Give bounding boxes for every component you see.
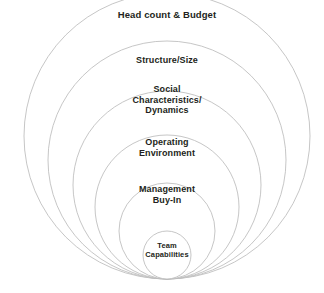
layer-label-operating-environment: Operating Environment: [139, 137, 195, 158]
layer-label-management-buy-in: Management Buy-In: [139, 184, 195, 205]
layer-label-structure-size: Structure/Size: [136, 55, 198, 66]
layer-label-team-capabilities: Team Capabilities: [145, 242, 188, 260]
nested-circles-diagram: Head count & BudgetStructure/SizeSocial …: [0, 0, 324, 293]
layer-label-social-characteristics-dynamics: Social Characteristics/ Dynamics: [132, 84, 201, 116]
layer-label-head-count-budget: Head count & Budget: [118, 9, 216, 20]
